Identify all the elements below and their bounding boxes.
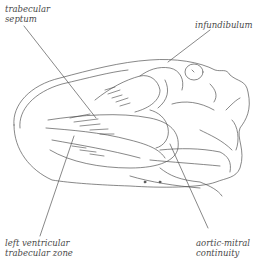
leader-aortic-mitral xyxy=(170,144,208,228)
heart-drawing xyxy=(0,0,255,259)
label-trabecular-septum: trabecular septum xyxy=(5,4,50,24)
leader-infundibulum xyxy=(168,30,210,62)
label-left-ventricular-trabecular-zone: left ventricular trabecular zone xyxy=(5,238,73,258)
leader-trabecular-septum xyxy=(24,26,96,118)
label-infundibulum: infundibulum xyxy=(195,20,253,30)
leader-lv-trabecular-zone xyxy=(40,136,74,236)
label-aortic-mitral-continuity: aortic-mitral continuity xyxy=(196,238,250,258)
